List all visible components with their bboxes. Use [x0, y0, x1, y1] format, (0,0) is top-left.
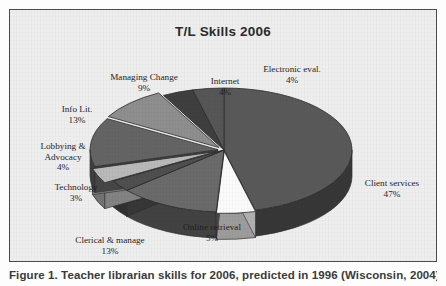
- slice-label-value: 5%: [162, 233, 262, 244]
- slice-label-value: 4%: [248, 75, 336, 86]
- slice-label-name: Technology: [40, 182, 112, 193]
- slice-label-name: Online retrieval: [162, 222, 262, 233]
- slice-label-info-lit: Info Lit. 13%: [46, 104, 108, 125]
- slice-label-value: 9%: [92, 83, 196, 94]
- slice-label-name: Info Lit.: [46, 104, 108, 115]
- figure-caption-text: Figure 1. Teacher librarian skills for 2…: [9, 269, 437, 281]
- figure-frame: T/L Skills 2006 Managing Change 9% Inter…: [9, 9, 437, 262]
- slice-label-name: Internet: [196, 76, 254, 87]
- slice-label-value: 47%: [344, 189, 437, 200]
- slice-label-value: 3%: [40, 193, 112, 204]
- slice-label-name: Client services: [344, 178, 437, 189]
- slice-label-technology: Technology 3%: [40, 182, 112, 203]
- slice-label-name: Electronic eval.: [248, 64, 336, 75]
- slice-label-lobbying-advocacy: Lobbying & Advocacy 4%: [24, 141, 102, 173]
- slice-label-client-services: Client services 47%: [344, 178, 437, 199]
- chart-title: T/L Skills 2006: [10, 24, 436, 39]
- slice-label-online-retrieval: Online retrieval 5%: [162, 222, 262, 243]
- slice-label-name-line2: Advocacy: [24, 152, 102, 163]
- slice-label-value: 4%: [24, 162, 102, 173]
- slice-label-value: 4%: [196, 87, 254, 98]
- slice-label-value: 13%: [46, 115, 108, 126]
- slice-label-managing-change: Managing Change 9%: [92, 72, 196, 93]
- slice-label-internet: Internet 4%: [196, 76, 254, 97]
- slice-label-clerical-manage: Clerical & manage 13%: [54, 235, 166, 256]
- slice-label-name-line1: Lobbying &: [24, 141, 102, 152]
- slice-label-name: Managing Change: [92, 72, 196, 83]
- figure-caption: Figure 1. Teacher librarian skills for 2…: [9, 269, 437, 286]
- slice-label-value: 13%: [54, 246, 166, 257]
- slice-label-electronic-eval: Electronic eval. 4%: [248, 64, 336, 85]
- scanned-page: T/L Skills 2006 Managing Change 9% Inter…: [0, 0, 446, 286]
- slice-label-name: Clerical & manage: [54, 235, 166, 246]
